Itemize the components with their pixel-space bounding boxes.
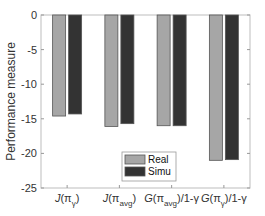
x-category-label: G(πγ)/1-γ bbox=[201, 192, 247, 208]
legend: RealSimu bbox=[122, 152, 176, 181]
y-axis-label: Performance measure bbox=[4, 42, 18, 161]
y-tick-label: -20 bbox=[21, 147, 37, 159]
bar-real bbox=[157, 15, 170, 126]
x-category-label: J(πγ) bbox=[54, 192, 79, 208]
bar-simu bbox=[121, 15, 134, 124]
y-tick-label: -15 bbox=[21, 113, 37, 125]
legend-swatch-simu bbox=[125, 167, 145, 176]
y-tick-label: -5 bbox=[27, 44, 37, 56]
legend-label-simu: Simu bbox=[148, 166, 171, 177]
y-tick-label: -10 bbox=[21, 78, 37, 90]
plot-area: 0-5-10-15-20-25Performance measureJ(πγ)J… bbox=[4, 9, 250, 208]
y-tick-label: 0 bbox=[31, 9, 37, 21]
legend-label-real: Real bbox=[148, 154, 169, 165]
bar-simu bbox=[69, 15, 82, 114]
bar-chart: 0-5-10-15-20-25Performance measureJ(πγ)J… bbox=[0, 0, 265, 216]
bar-real bbox=[105, 15, 118, 126]
x-category-label: J(πavg) bbox=[102, 192, 136, 208]
x-category-label: G(πavg)/1-γ bbox=[144, 192, 199, 208]
bar-simu bbox=[225, 15, 238, 160]
legend-swatch-real bbox=[125, 155, 145, 164]
bar-simu bbox=[173, 15, 186, 126]
bar-real bbox=[53, 15, 66, 116]
y-tick-label: -25 bbox=[21, 182, 37, 194]
bar-real bbox=[209, 15, 222, 160]
